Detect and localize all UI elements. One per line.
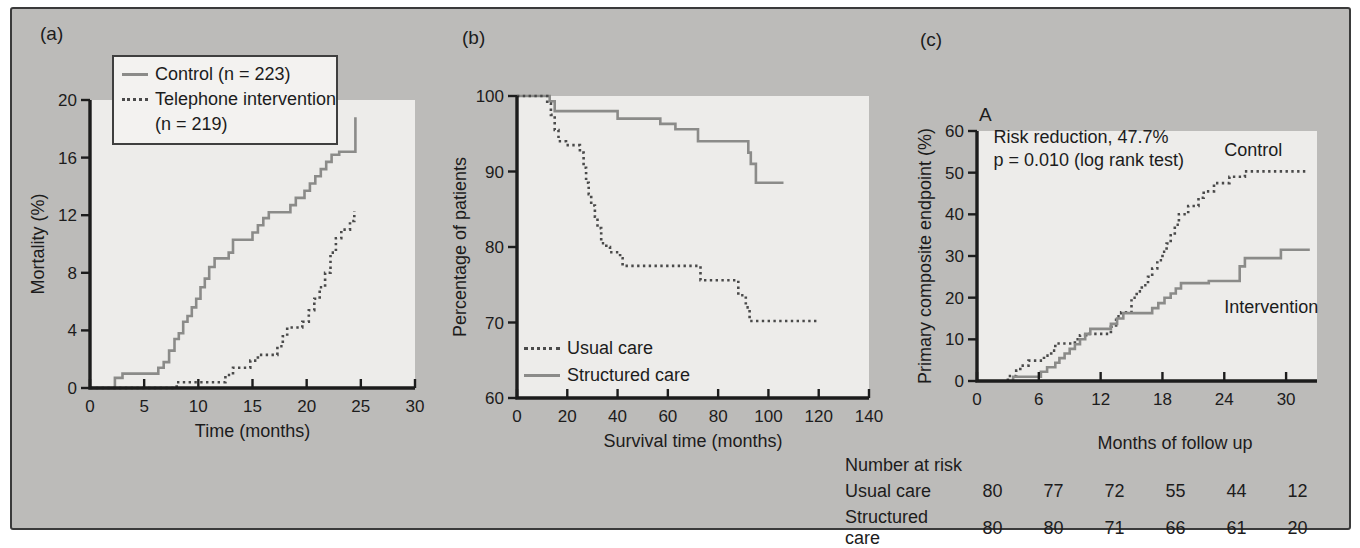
svg-text:4: 4 bbox=[68, 321, 77, 340]
svg-text:25: 25 bbox=[351, 397, 370, 416]
svg-text:Time (months): Time (months) bbox=[195, 421, 310, 441]
svg-text:20: 20 bbox=[945, 289, 964, 308]
svg-text:18: 18 bbox=[1153, 390, 1172, 409]
svg-text:0: 0 bbox=[512, 407, 521, 426]
svg-text:20: 20 bbox=[58, 91, 77, 110]
risk-count: 71 bbox=[1084, 518, 1145, 539]
legend-item-telephone-n: (n = 219) bbox=[155, 112, 328, 137]
svg-text:Primary composite endpoint (%): Primary composite endpoint (%) bbox=[915, 128, 935, 384]
svg-text:6: 6 bbox=[1034, 390, 1043, 409]
risk-count: 55 bbox=[1145, 481, 1206, 502]
svg-text:40: 40 bbox=[608, 407, 627, 426]
legend-item-telephone: Telephone intervention bbox=[122, 87, 328, 112]
legend-item-usual-care: Usual care bbox=[524, 335, 690, 362]
legend-item-control: Control (n = 223) bbox=[122, 62, 328, 87]
legend-label-telephone: Telephone intervention bbox=[155, 87, 336, 112]
table-row-usual-care: Usual care 80 77 72 55 44 12 bbox=[845, 481, 1328, 502]
svg-text:0: 0 bbox=[68, 379, 77, 398]
svg-text:60: 60 bbox=[485, 389, 504, 408]
svg-text:0: 0 bbox=[85, 397, 94, 416]
svg-text:40: 40 bbox=[945, 205, 964, 224]
dotted-line-swatch-icon bbox=[524, 347, 560, 350]
svg-text:120: 120 bbox=[805, 407, 833, 426]
svg-text:5: 5 bbox=[139, 397, 148, 416]
risk-count: 20 bbox=[1267, 518, 1328, 539]
chart-c-svg: 06121824300102030405060Primary composite… bbox=[917, 19, 1360, 419]
row-label: Usual care bbox=[845, 481, 962, 502]
svg-text:0: 0 bbox=[955, 372, 964, 391]
svg-text:140: 140 bbox=[855, 407, 883, 426]
svg-text:A: A bbox=[979, 104, 992, 125]
svg-text:Survival time (months): Survival time (months) bbox=[603, 431, 782, 451]
dotted-line-swatch-icon bbox=[122, 98, 148, 101]
svg-text:20: 20 bbox=[297, 397, 316, 416]
svg-text:Risk reduction, 47.7%: Risk reduction, 47.7% bbox=[993, 127, 1168, 147]
svg-text:24: 24 bbox=[1215, 390, 1234, 409]
svg-text:30: 30 bbox=[406, 397, 425, 416]
svg-text:p = 0.010 (log rank test): p = 0.010 (log rank test) bbox=[993, 150, 1184, 170]
svg-text:80: 80 bbox=[485, 238, 504, 257]
svg-text:50: 50 bbox=[945, 164, 964, 183]
legend-label-telephone-n: (n = 219) bbox=[155, 112, 228, 137]
svg-text:30: 30 bbox=[945, 247, 964, 266]
svg-text:80: 80 bbox=[709, 407, 728, 426]
risk-count: 80 bbox=[962, 518, 1023, 539]
svg-text:0: 0 bbox=[972, 390, 981, 409]
risk-count: 80 bbox=[1023, 518, 1084, 539]
table-row-structured-care: Structured care 80 80 71 66 61 20 bbox=[845, 507, 1328, 548]
svg-text:10: 10 bbox=[945, 330, 964, 349]
svg-text:12: 12 bbox=[1091, 390, 1110, 409]
risk-count: 12 bbox=[1267, 481, 1328, 502]
svg-text:12: 12 bbox=[58, 206, 77, 225]
svg-text:15: 15 bbox=[243, 397, 262, 416]
svg-text:10: 10 bbox=[189, 397, 208, 416]
risk-count: 72 bbox=[1084, 481, 1145, 502]
risk-count: 66 bbox=[1145, 518, 1206, 539]
risk-count: 44 bbox=[1206, 481, 1267, 502]
legend-label-usual-care: Usual care bbox=[567, 335, 653, 362]
svg-text:Control: Control bbox=[1224, 140, 1282, 160]
svg-text:100: 100 bbox=[754, 407, 782, 426]
legend-label-control: Control (n = 223) bbox=[155, 62, 291, 87]
legend-label-structured-care: Structured care bbox=[567, 362, 690, 389]
svg-text:70: 70 bbox=[485, 314, 504, 333]
legend-item-structured-care: Structured care bbox=[524, 362, 690, 389]
svg-text:100: 100 bbox=[476, 87, 504, 106]
risk-count: 61 bbox=[1206, 518, 1267, 539]
svg-text:8: 8 bbox=[68, 264, 77, 283]
svg-text:30: 30 bbox=[1277, 390, 1296, 409]
number-at-risk-title: Number at risk bbox=[845, 455, 962, 476]
risk-count: 77 bbox=[1023, 481, 1084, 502]
months-of-follow-up-label: Months of follow up bbox=[962, 433, 1360, 454]
svg-text:Percentage of patients: Percentage of patients bbox=[450, 157, 470, 337]
svg-text:60: 60 bbox=[658, 407, 677, 426]
svg-text:90: 90 bbox=[485, 163, 504, 182]
chart-b-legend: Usual care Structured care bbox=[524, 335, 690, 389]
solid-line-swatch-icon bbox=[524, 374, 560, 377]
row-label: Structured care bbox=[845, 507, 962, 548]
figure-panel: (a) (b) (c) 051015202530048121620Time (m… bbox=[10, 7, 1351, 530]
svg-text:16: 16 bbox=[58, 149, 77, 168]
chart-a-legend: Control (n = 223) Telephone intervention… bbox=[112, 55, 338, 145]
svg-text:Mortality (%): Mortality (%) bbox=[28, 193, 48, 294]
solid-line-swatch-icon bbox=[122, 73, 148, 76]
chart-b-svg: 02040608010012014060708090100Survival ti… bbox=[452, 19, 912, 464]
svg-text:Intervention: Intervention bbox=[1224, 297, 1318, 317]
svg-text:60: 60 bbox=[945, 122, 964, 141]
risk-count: 80 bbox=[962, 481, 1023, 502]
svg-text:20: 20 bbox=[558, 407, 577, 426]
